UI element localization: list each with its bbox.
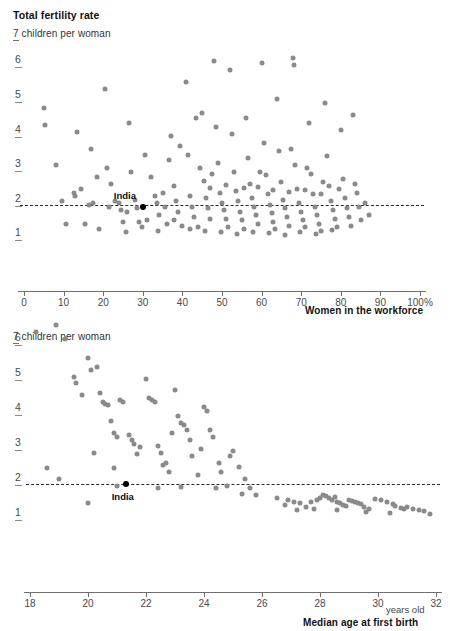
data-point — [196, 225, 201, 230]
data-point — [175, 413, 180, 418]
highlighted-data-point-india[interactable] — [140, 204, 146, 210]
x-tick-mark — [378, 592, 379, 597]
y-tick-label: 2 — [15, 192, 21, 204]
x-tick-mark — [64, 291, 65, 296]
data-point — [74, 380, 79, 385]
data-point — [117, 201, 122, 206]
data-point — [291, 55, 296, 60]
data-point — [204, 195, 209, 200]
data-point — [94, 364, 99, 369]
data-point — [393, 503, 398, 508]
data-point — [187, 227, 192, 232]
x-tick-label: 26 — [256, 598, 267, 609]
data-point — [210, 434, 215, 439]
data-point — [307, 121, 312, 126]
data-point — [227, 67, 232, 72]
data-point — [148, 175, 153, 180]
data-point — [324, 154, 329, 159]
data-point — [155, 443, 160, 448]
data-point — [160, 190, 165, 195]
x-tick-mark — [88, 592, 89, 597]
data-point — [180, 223, 185, 228]
y-tick-mark — [15, 240, 22, 241]
data-point — [53, 163, 58, 168]
data-point — [319, 228, 324, 233]
data-point — [119, 207, 124, 212]
x-tick-mark — [301, 291, 302, 296]
data-point — [315, 213, 320, 218]
data-point — [237, 209, 242, 214]
data-point — [361, 504, 366, 509]
data-point — [59, 199, 64, 204]
data-point — [279, 180, 284, 185]
data-point — [206, 206, 211, 211]
data-point — [207, 427, 212, 432]
data-point — [91, 201, 96, 206]
data-point — [289, 147, 294, 152]
data-point — [384, 499, 389, 504]
y-tick-label: 1 — [15, 226, 21, 238]
data-point-label-india: India — [112, 491, 134, 502]
data-point — [282, 233, 287, 238]
data-point — [231, 448, 236, 453]
y-tick-label: 1 — [15, 506, 21, 518]
x-tick-label: 40 — [177, 297, 188, 308]
data-point — [219, 230, 224, 235]
data-point — [109, 419, 114, 424]
data-point — [233, 188, 238, 193]
data-point — [167, 469, 172, 474]
data-point — [188, 194, 193, 199]
y-tick-mark — [15, 171, 22, 172]
data-point — [344, 503, 349, 508]
data-point — [266, 231, 271, 236]
highlighted-data-point-india[interactable] — [123, 481, 129, 487]
data-point — [250, 230, 255, 235]
data-point — [80, 392, 85, 397]
data-point — [247, 182, 252, 187]
data-point — [202, 178, 207, 183]
data-point — [405, 504, 410, 509]
data-point — [152, 194, 157, 199]
y-tick-label: 3 — [15, 157, 21, 169]
data-point — [140, 225, 145, 230]
data-point — [428, 511, 433, 516]
data-point — [79, 187, 84, 192]
y-tick-mark — [15, 380, 22, 381]
data-point — [135, 452, 140, 457]
data-point — [162, 204, 167, 209]
data-point — [314, 232, 319, 237]
x-tick-mark — [320, 592, 321, 597]
data-point — [263, 173, 268, 178]
y-tick-label: 6 — [15, 53, 21, 65]
data-point — [267, 202, 272, 207]
data-point — [164, 221, 169, 226]
data-point — [225, 225, 230, 230]
data-point — [89, 147, 94, 152]
data-point — [340, 176, 345, 181]
data-point — [320, 180, 325, 185]
y-tick-label: 5 — [15, 88, 21, 100]
data-point — [132, 441, 137, 446]
data-point — [257, 169, 262, 174]
data-point — [253, 213, 258, 218]
data-point — [213, 486, 218, 491]
chart2-x-axis-title: Median age at first birth — [303, 617, 418, 628]
data-point — [57, 476, 62, 481]
data-point — [328, 199, 333, 204]
data-point — [231, 169, 236, 174]
x-tick-label: 18 — [24, 598, 35, 609]
data-point — [285, 214, 290, 219]
data-point — [277, 149, 282, 154]
data-point — [210, 171, 215, 176]
data-point — [33, 329, 38, 334]
data-point — [271, 187, 276, 192]
data-point — [105, 166, 110, 171]
data-point — [378, 497, 383, 502]
x-tick-mark — [380, 291, 381, 296]
data-point — [259, 60, 264, 65]
data-point — [134, 206, 139, 211]
data-point — [410, 507, 415, 512]
data-point — [354, 190, 359, 195]
data-point — [155, 228, 160, 233]
data-point — [86, 356, 91, 361]
